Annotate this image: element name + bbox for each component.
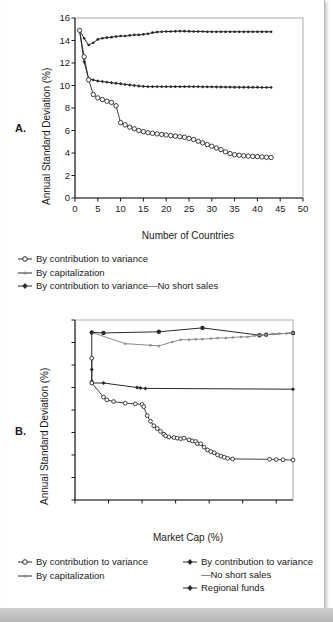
legend-a-item: By capitalization [17, 267, 317, 280]
figure-page: A. Annual Standard Deviation (%) 0246810… [0, 0, 333, 622]
panel-a-legend: By contribution to varianceBy capitaliza… [17, 253, 317, 294]
filled-diamond-line-icon [17, 280, 33, 292]
figure-sheet: A. Annual Standard Deviation (%) 0246810… [3, 0, 325, 608]
legend-b-item: By capitalization [17, 570, 182, 583]
legend-a-label: By contribution to variance—No short sal… [36, 280, 218, 293]
legend-b-label: By contribution to variance—No short sal… [201, 556, 322, 581]
legend-b-label: By contribution to variance [36, 556, 148, 569]
legend-a-label: By capitalization [36, 267, 105, 280]
open-circle-line-icon [17, 253, 33, 265]
panel-a-x-axis-label: Number of Countries [73, 230, 303, 241]
panel-b-x-axis-label: Market Cap (%) [73, 532, 303, 543]
small-dot-line-icon [17, 570, 33, 582]
panel-b-legend-col-1: By contribution to varianceBy capitaliza… [17, 556, 182, 596]
panel-a: A. Annual Standard Deviation (%) 0246810… [3, 0, 325, 250]
panel-b: B. Annual Standard Deviation (%) 0246810… [3, 300, 325, 555]
panel-b-legend-col-2: By contribution to variance—No short sal… [182, 556, 322, 596]
small-dot-line-icon [17, 267, 33, 279]
filled-diamond-line-icon [182, 582, 198, 594]
open-circle-line-icon [17, 556, 33, 568]
legend-b-item: Regional funds [182, 582, 322, 595]
panel-b-legend: By contribution to varianceBy capitaliza… [17, 556, 322, 596]
legend-b-item: By contribution to variance—No short sal… [182, 556, 322, 581]
legend-a-item: By contribution to variance [17, 253, 317, 266]
panel-a-plot [3, 0, 325, 250]
legend-b-label: By capitalization [36, 570, 105, 583]
viewer-bottom-bar [0, 608, 333, 622]
legend-b-label: Regional funds [201, 582, 264, 595]
filled-diamond-line-icon [182, 556, 198, 568]
panel-b-plot [3, 300, 325, 555]
legend-a-item: By contribution to variance—No short sal… [17, 280, 317, 293]
legend-b-item: By contribution to variance [17, 556, 182, 569]
legend-a-label: By contribution to variance [36, 253, 148, 266]
